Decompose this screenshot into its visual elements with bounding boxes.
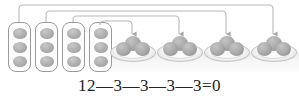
group-dot: [67, 28, 81, 39]
group-dot: [94, 42, 108, 53]
plate-3: [204, 35, 250, 62]
plate-4: [251, 35, 297, 62]
plate-ball: [257, 42, 272, 56]
plate-ball: [135, 42, 150, 56]
plate-1: [110, 35, 156, 62]
group-dot: [94, 28, 108, 39]
plate-ball: [229, 42, 244, 56]
plate-ball: [210, 42, 225, 56]
group-dot: [67, 42, 81, 53]
group-dot: [67, 56, 81, 67]
group-dot: [40, 28, 54, 39]
plate-ball: [116, 42, 131, 56]
group-dot: [13, 28, 27, 39]
plate-ball: [276, 42, 291, 56]
group-box-4: [89, 22, 112, 72]
group-dot: [13, 56, 27, 67]
plate-2: [157, 35, 203, 62]
group-dot: [13, 42, 27, 53]
illustration-canvas: 12—3—3—3—3=0: [0, 0, 299, 98]
group-dot: [40, 42, 54, 53]
equation-text: 12—3—3—3—3=0: [0, 76, 299, 96]
group-box-2: [35, 22, 58, 72]
group-dot: [94, 56, 108, 67]
plate-ball: [182, 42, 197, 56]
group-box-3: [62, 22, 85, 72]
group-dot: [40, 56, 54, 67]
plate-ball: [163, 42, 178, 56]
group-box-1: [8, 22, 31, 72]
